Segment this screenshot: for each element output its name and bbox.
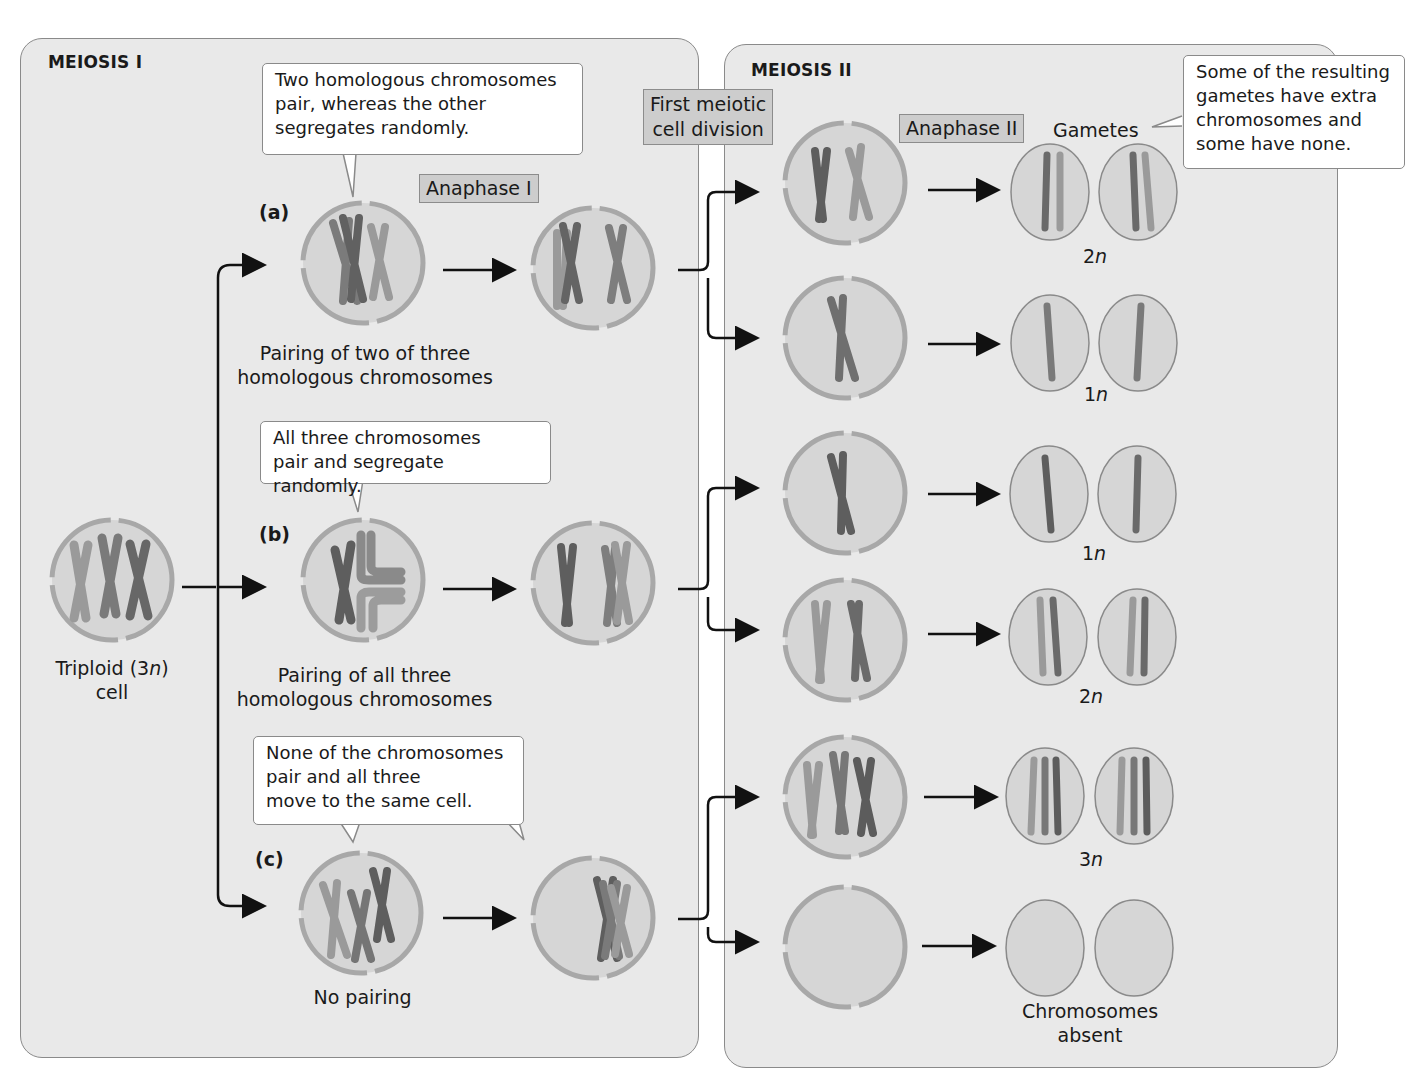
case-a-label: Pairing of two of three homologous chrom…: [230, 341, 500, 389]
case-a-cell-1: [303, 203, 423, 323]
callout-case-b: All three chromosomes pair and segregate…: [260, 421, 551, 484]
case-a-cell-2: [533, 208, 653, 328]
case-c-letter: (c): [255, 848, 284, 870]
case-b-cell-2: [533, 523, 653, 643]
case-a-letter: (a): [259, 201, 289, 223]
chromosomes-absent-label: Chromosomes absent: [1010, 999, 1170, 1047]
case-c-cell-2: [533, 858, 653, 978]
ploidy-label-5: 3n: [1079, 847, 1103, 871]
case-b-label: Pairing of all three homologous chromoso…: [222, 663, 507, 711]
mii-cell-2: [785, 278, 905, 398]
triploid-cell: [52, 520, 172, 640]
gametes-label: Gametes: [1053, 118, 1139, 142]
ploidy-label-4: 2n: [1079, 684, 1103, 708]
first-meiotic-division-tag: First meiotic cell division: [643, 89, 773, 145]
case-b-label-line1: Pairing of all three: [222, 663, 507, 687]
mii-cell-5: [785, 737, 905, 857]
mii-cell-6: [785, 887, 905, 1007]
callout-case-a: Two homologous chromosomes pair, whereas…: [262, 63, 583, 155]
callout-case-c: None of the chromosomes pair and all thr…: [253, 736, 524, 825]
mii-cell-3: [785, 433, 905, 553]
case-a-label-line1: Pairing of two of three: [230, 341, 500, 365]
mii-cell-1: [785, 123, 905, 243]
case-c-label: No pairing: [290, 985, 435, 1009]
case-c-cell-1: [301, 853, 421, 973]
case-b-cell-1: [303, 520, 423, 640]
ploidy-label-1: 2n: [1083, 244, 1107, 268]
triploid-label: Triploid (3n) cell: [42, 656, 182, 704]
case-b-label-line2: homologous chromosomes: [222, 687, 507, 711]
case-a-label-line2: homologous chromosomes: [230, 365, 500, 389]
anaphase-ii-tag: Anaphase II: [899, 114, 1024, 143]
callout-gametes: Some of the resulting gametes have extra…: [1183, 55, 1405, 169]
ploidy-label-3: 1n: [1082, 541, 1106, 565]
case-c-label-line1: No pairing: [290, 985, 435, 1009]
anaphase-i-tag: Anaphase I: [419, 174, 539, 203]
ploidy-label-2: 1n: [1084, 382, 1108, 406]
mii-cell-4: [785, 580, 905, 700]
case-b-letter: (b): [259, 523, 290, 545]
